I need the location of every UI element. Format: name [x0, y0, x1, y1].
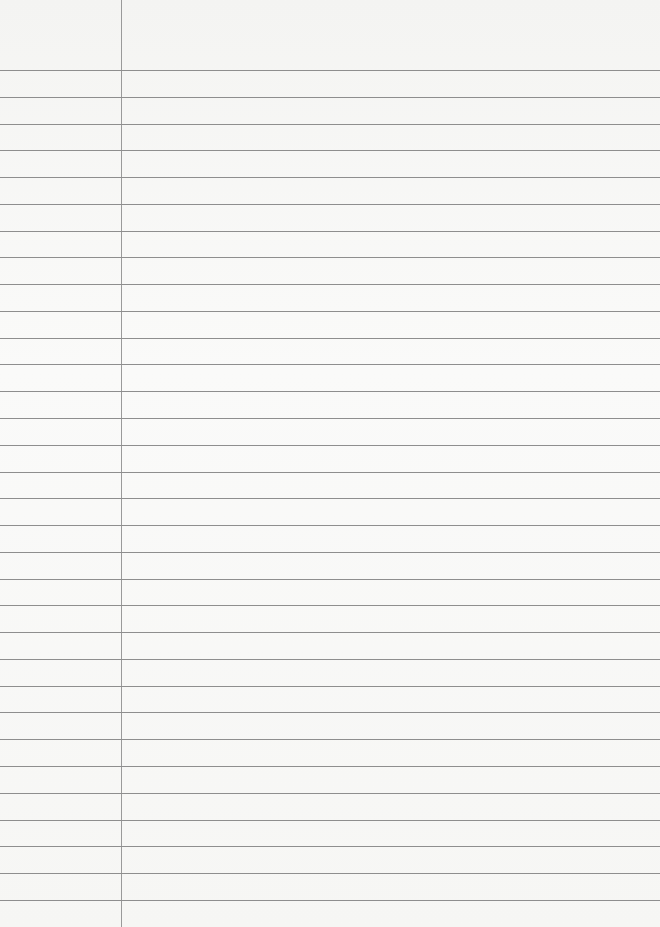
- ruled-line: [0, 338, 660, 339]
- ruled-line: [0, 124, 660, 125]
- ruled-line: [0, 311, 660, 312]
- ruled-line: [0, 97, 660, 98]
- ruled-line: [0, 70, 660, 71]
- ruled-line: [0, 391, 660, 392]
- ruled-line: [0, 605, 660, 606]
- ruled-line: [0, 632, 660, 633]
- ruled-line: [0, 579, 660, 580]
- margin-line: [121, 0, 122, 927]
- ruled-line: [0, 659, 660, 660]
- ruled-line: [0, 364, 660, 365]
- ruled-line: [0, 739, 660, 740]
- ruled-line: [0, 900, 660, 901]
- ruled-line: [0, 257, 660, 258]
- ruled-line: [0, 150, 660, 151]
- ruled-line: [0, 793, 660, 794]
- ruled-line: [0, 231, 660, 232]
- ruled-line: [0, 445, 660, 446]
- ruled-line: [0, 177, 660, 178]
- ruled-line: [0, 418, 660, 419]
- ruled-line: [0, 498, 660, 499]
- ruled-line: [0, 712, 660, 713]
- ruled-line: [0, 204, 660, 205]
- ruled-line: [0, 552, 660, 553]
- ruled-line: [0, 284, 660, 285]
- lined-paper-page: [0, 0, 660, 927]
- ruled-line: [0, 472, 660, 473]
- ruled-line: [0, 873, 660, 874]
- ruled-line: [0, 686, 660, 687]
- ruled-line: [0, 846, 660, 847]
- ruled-line: [0, 766, 660, 767]
- ruled-line: [0, 525, 660, 526]
- ruled-line: [0, 820, 660, 821]
